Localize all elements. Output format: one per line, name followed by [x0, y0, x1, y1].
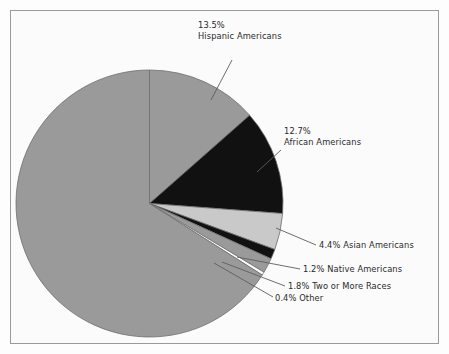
slice-label-native-americans: 1.2% Native Americans	[303, 264, 402, 275]
leader-line-asian	[276, 228, 316, 245]
slice-text-two-or-more: 1.8% Two or More Races	[288, 281, 391, 292]
pie-chart-graphic	[0, 0, 449, 354]
slice-label-two-or-more-races: 1.8% Two or More Races	[288, 281, 391, 292]
slice-label-african-americans: 12.7% African Americans	[284, 126, 361, 147]
slice-text-asian: 4.4% Asian Americans	[319, 240, 414, 251]
slice-label-other: 0.4% Other	[275, 293, 323, 304]
slice-label-asian-americans: 4.4% Asian Americans	[319, 240, 414, 251]
slice-label-hispanic-americans: 13.5% Hispanic Americans	[198, 20, 282, 41]
slice-name-hispanic: Hispanic Americans	[198, 31, 282, 42]
slice-percent-african: 12.7%	[284, 126, 361, 137]
slice-text-other: 0.4% Other	[275, 293, 323, 304]
slice-percent-hispanic: 13.5%	[198, 20, 282, 31]
pie-slices-group	[16, 70, 283, 337]
slice-text-native: 1.2% Native Americans	[303, 264, 402, 275]
pie-chart-page: 13.5% Hispanic Americans 12.7% African A…	[0, 0, 449, 354]
slice-name-african: African Americans	[284, 137, 361, 148]
